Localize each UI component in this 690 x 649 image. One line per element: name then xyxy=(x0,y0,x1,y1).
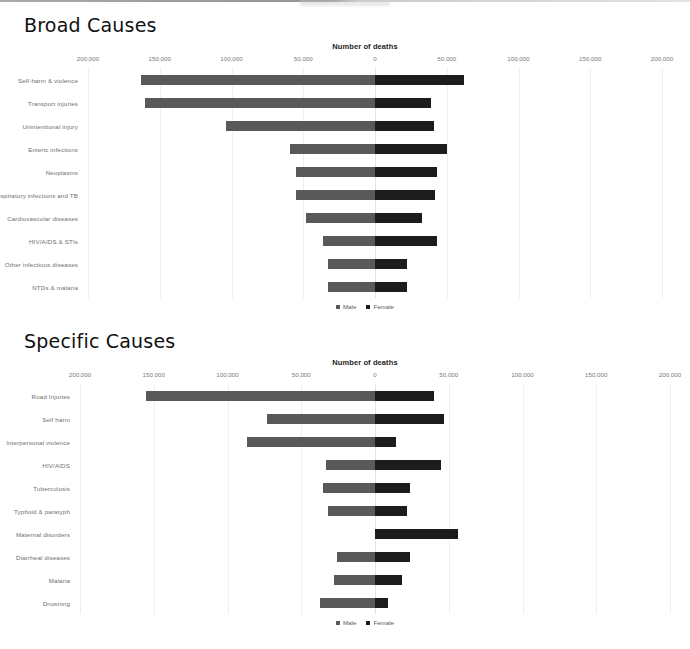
bar-male[interactable] xyxy=(337,552,375,562)
bar-male[interactable] xyxy=(328,259,375,269)
x-tick-label: 100,000 xyxy=(220,55,242,62)
bar-female[interactable] xyxy=(375,575,402,585)
legend-label-male: Male xyxy=(343,303,356,310)
bar-row: Interpersonal violence xyxy=(0,430,690,453)
bar-male[interactable] xyxy=(247,437,375,447)
bar-male[interactable] xyxy=(296,167,375,177)
page-header-artifact xyxy=(300,0,390,6)
bar-male[interactable] xyxy=(290,144,375,154)
legend-item-male: Male xyxy=(336,303,356,310)
bar-pair xyxy=(0,552,690,562)
x-tick-label: 0 xyxy=(373,371,376,378)
bar-pair xyxy=(0,391,690,401)
bar-female[interactable] xyxy=(375,437,396,447)
bar-pair xyxy=(0,598,690,608)
bar-male[interactable] xyxy=(323,483,375,493)
bar-row: Respiratory infections and TB xyxy=(0,183,690,206)
bar-pair xyxy=(0,575,690,585)
section-broad-causes: Broad Causes Number of deaths 200,000150… xyxy=(0,14,690,334)
bar-row: Drowning xyxy=(0,591,690,614)
bar-male[interactable] xyxy=(226,121,375,131)
bar-rows-specific: Road InjuriesSelf harmInterpersonal viol… xyxy=(0,384,690,614)
bar-female[interactable] xyxy=(375,236,437,246)
bar-female[interactable] xyxy=(375,598,388,608)
axis-title-broad: Number of deaths xyxy=(40,42,690,51)
legend-label-female: Female xyxy=(373,303,394,310)
legend-label-female: Female xyxy=(373,619,394,626)
bar-pair xyxy=(0,144,690,154)
bar-row: HIV/AIDS & STIs xyxy=(0,229,690,252)
bar-female[interactable] xyxy=(375,414,444,424)
legend-item-female: Female xyxy=(366,619,394,626)
bar-pair xyxy=(0,75,690,85)
legend-label-male: Male xyxy=(343,619,356,626)
bar-row: Enteric infections xyxy=(0,137,690,160)
x-tick-label: 100,000 xyxy=(507,55,529,62)
bar-female[interactable] xyxy=(375,121,434,131)
legend-broad: Male Female xyxy=(40,303,690,310)
bar-pair xyxy=(0,121,690,131)
x-tick-label: 100,000 xyxy=(511,371,533,378)
chart-specific-causes: Number of deaths 200,000150,000100,00050… xyxy=(0,358,690,626)
bar-male[interactable] xyxy=(334,575,375,585)
bar-row: Self-harm & violence xyxy=(0,68,690,91)
bar-male[interactable] xyxy=(306,213,375,223)
chart-broad-causes: Number of deaths 200,000150,000100,00050… xyxy=(0,42,690,310)
x-tick-label: 0 xyxy=(373,55,376,62)
bar-female[interactable] xyxy=(375,552,410,562)
axis-title-specific: Number of deaths xyxy=(40,358,690,367)
x-tick-label: 150,000 xyxy=(143,371,165,378)
bar-pair xyxy=(0,259,690,269)
x-axis-ticks-broad: 200,000150,000100,00050,000050,000100,00… xyxy=(0,55,690,68)
bar-female[interactable] xyxy=(375,98,431,108)
bar-female[interactable] xyxy=(375,259,407,269)
bar-pair xyxy=(0,282,690,292)
bar-row: Transport injuries xyxy=(0,91,690,114)
legend-swatch-female-icon xyxy=(366,305,370,309)
bar-female[interactable] xyxy=(375,190,435,200)
bar-row: Other infectious diseases xyxy=(0,252,690,275)
bar-male[interactable] xyxy=(146,391,375,401)
bar-pair xyxy=(0,236,690,246)
bar-pair xyxy=(0,506,690,516)
legend-specific: Male Female xyxy=(40,619,690,626)
bar-female[interactable] xyxy=(375,483,410,493)
bar-pair xyxy=(0,483,690,493)
bar-female[interactable] xyxy=(375,144,447,154)
bar-male[interactable] xyxy=(326,460,375,470)
bar-pair xyxy=(0,167,690,177)
bar-row: Maternal disorders xyxy=(0,522,690,545)
bar-row: HIV/AIDS xyxy=(0,453,690,476)
bar-female[interactable] xyxy=(375,529,458,539)
bar-female[interactable] xyxy=(375,460,441,470)
bar-male[interactable] xyxy=(320,598,375,608)
legend-swatch-female-icon xyxy=(366,621,370,625)
bar-male[interactable] xyxy=(328,506,375,516)
bar-row: Road Injuries xyxy=(0,384,690,407)
bar-pair xyxy=(0,529,690,539)
bar-male[interactable] xyxy=(267,414,375,424)
bar-female[interactable] xyxy=(375,391,434,401)
bar-female[interactable] xyxy=(375,506,407,516)
bar-female[interactable] xyxy=(375,167,437,177)
bar-pair xyxy=(0,414,690,424)
bar-row: Unintentional injury xyxy=(0,114,690,137)
bar-row: NTDs & malaria xyxy=(0,275,690,298)
bar-male[interactable] xyxy=(323,236,375,246)
x-tick-label: 200,000 xyxy=(69,371,91,378)
bar-male[interactable] xyxy=(296,190,375,200)
bar-male[interactable] xyxy=(141,75,375,85)
bar-female[interactable] xyxy=(375,75,464,85)
bar-row: Self harm xyxy=(0,407,690,430)
bar-row: Malaria xyxy=(0,568,690,591)
bar-female[interactable] xyxy=(375,213,422,223)
bar-female[interactable] xyxy=(375,282,407,292)
bar-male[interactable] xyxy=(145,98,375,108)
x-tick-label: 50,000 xyxy=(437,55,456,62)
bar-pair xyxy=(0,460,690,470)
plot-area-broad: 200,000150,000100,00050,000050,000100,00… xyxy=(0,55,690,298)
x-axis-ticks-specific: 200,000150,000100,00050,000050,000100,00… xyxy=(0,371,690,384)
bar-pair xyxy=(0,98,690,108)
x-tick-label: 150,000 xyxy=(579,55,601,62)
bar-male[interactable] xyxy=(328,282,375,292)
